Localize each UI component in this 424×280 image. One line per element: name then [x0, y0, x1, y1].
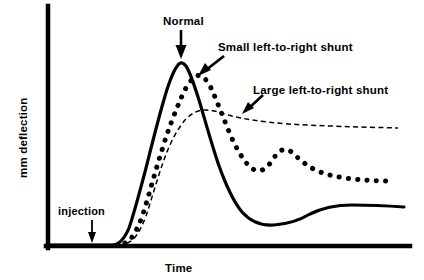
normal-arrow: [176, 30, 187, 59]
chart-canvas: [0, 0, 424, 280]
x-axis-label: Time: [165, 263, 192, 275]
annotation-label-normal: Normal: [163, 16, 204, 28]
chart-figure: Normal Small left-to-right shunt Large l…: [0, 0, 424, 280]
annotation-label-small-shunt: Small left-to-right shunt: [218, 42, 353, 54]
large-shunt-arrow: [242, 95, 263, 114]
annotation-label-injection: injection: [58, 206, 105, 217]
injection-arrow: [88, 220, 96, 243]
small-shunt-arrow: [198, 56, 224, 76]
curve-small-shunt: [125, 76, 394, 244]
annotation-label-large-shunt: Large left-to-right shunt: [253, 85, 388, 97]
y-axis-label: mm deflection: [18, 90, 30, 186]
